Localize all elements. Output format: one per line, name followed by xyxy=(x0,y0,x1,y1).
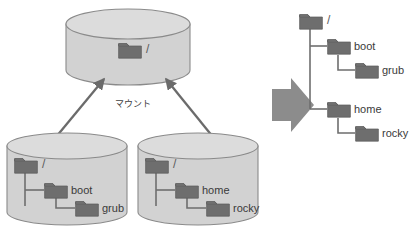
cylinder-top-home xyxy=(138,133,258,159)
folder-icon xyxy=(300,15,323,29)
folder-icon xyxy=(328,103,351,117)
cylinder-top-root xyxy=(66,9,190,39)
mount-arrow-left xyxy=(56,79,104,137)
folder-label-grub: grub xyxy=(102,202,124,214)
tree-label-boot: boot xyxy=(354,40,375,52)
cylinder-home-volume: / home rocky xyxy=(138,133,260,225)
tree-label-grub: grub xyxy=(382,64,404,76)
tree-node-boot: boot xyxy=(328,40,376,54)
tree-label-rocky: rocky xyxy=(382,127,409,139)
tree-node-rocky: rocky xyxy=(356,127,409,141)
cylinder-boot-volume: / boot grub xyxy=(7,133,127,225)
folder-label-boot: boot xyxy=(71,184,92,196)
tree-label-root: / xyxy=(327,13,331,27)
folder-icon xyxy=(15,159,38,173)
tree-node-home: home xyxy=(328,103,382,117)
folder-label-home: home xyxy=(202,184,230,196)
folder-label-rocky: rocky xyxy=(233,202,260,214)
mount-label: マウント xyxy=(115,99,151,109)
folder-icon xyxy=(356,127,379,141)
diagram-canvas: / マウント / boot xyxy=(0,0,415,235)
folder-icon xyxy=(45,184,68,198)
folder-icon xyxy=(119,44,142,58)
diagram-root: / マウント / boot xyxy=(0,0,415,235)
cylinder-root-volume: / xyxy=(66,9,190,85)
folder-icon xyxy=(356,64,379,78)
merged-directory-tree: / boot grub home rocky xyxy=(300,13,409,141)
folder-icon xyxy=(76,202,99,216)
folder-icon xyxy=(207,202,230,216)
result-block-arrow xyxy=(272,78,314,132)
tree-node-root: / xyxy=(300,13,331,29)
folder-icon xyxy=(328,40,351,54)
tree-label-home: home xyxy=(354,103,382,115)
folder-icon xyxy=(176,184,199,198)
mount-arrow-right xyxy=(166,79,213,137)
folder-icon xyxy=(146,159,169,173)
tree-node-grub: grub xyxy=(356,64,404,78)
cylinder-top-boot xyxy=(7,133,127,159)
